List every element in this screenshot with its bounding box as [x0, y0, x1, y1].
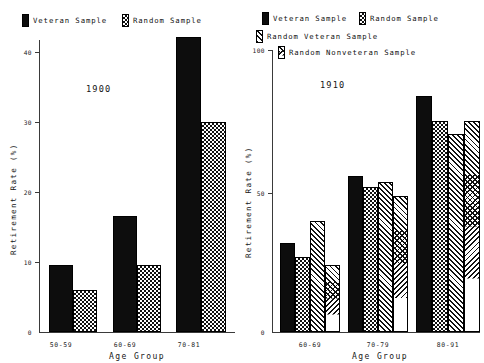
bar-veteran-70-79: [348, 176, 363, 332]
y-tick-40: [35, 52, 39, 53]
x-tick-label-60-69: 60-69: [95, 341, 155, 349]
x-tick-label-80-91: 80-91: [418, 341, 478, 349]
y-axis-line: [39, 40, 40, 333]
x-tick-label-70-81: 70-81: [159, 341, 219, 349]
y-tick-30: [35, 122, 39, 123]
y-tick-10: [35, 262, 39, 263]
bar-veteran-70-81: [176, 37, 201, 332]
y-tick-50: [268, 193, 272, 194]
y-axis-line: [272, 50, 273, 333]
plot-area-1900: 40 30 20 10 0 50-59 60-69 70-81: [0, 0, 242, 363]
bar-random-veteran-80-91: [448, 134, 464, 332]
bar-veteran-60-69: [113, 216, 137, 332]
y-tick-label-10: 10: [10, 259, 32, 266]
x-axis-line: [272, 332, 480, 333]
bar-random-50-59: [73, 290, 97, 332]
x-axis-title-1900: Age Group: [57, 352, 217, 361]
y-tick-label-100: 100: [243, 47, 265, 54]
x-axis-title-1910: Age Group: [300, 352, 460, 361]
y-axis-title-1900: Retirement Rate (%): [9, 143, 18, 255]
plot-area-1910: 100 50 0 60-69 70-79 80-91: [242, 0, 484, 363]
y-tick-20: [35, 192, 39, 193]
bar-veteran-60-69: [280, 243, 295, 332]
bar-random-nonveteran-60-69: [325, 265, 340, 332]
x-tick-label-70-79: 70-79: [348, 341, 408, 349]
bar-random-70-81: [201, 122, 226, 332]
bar-random-veteran-60-69: [310, 221, 325, 332]
panel-1900: Veteran Sample Random Sample 1900 40 30 …: [0, 0, 242, 363]
bar-random-nonveteran-80-91: [464, 121, 480, 332]
bar-veteran-50-59: [49, 265, 73, 332]
bar-veteran-80-91: [416, 96, 432, 332]
figure-two-panel-bar-charts: Veteran Sample Random Sample 1900 40 30 …: [0, 0, 484, 363]
x-axis-line: [39, 332, 235, 333]
y-tick-100: [268, 50, 272, 51]
bar-random-veteran-70-79: [378, 182, 393, 332]
y-tick-label-0: 0: [10, 329, 32, 336]
y-tick-label-0: 0: [243, 329, 265, 336]
y-tick-label-30: 30: [10, 119, 32, 126]
y-tick-label-40: 40: [10, 49, 32, 56]
bar-random-60-69: [295, 257, 310, 332]
panel-1910: Veteran Sample Random Sample Random Vete…: [242, 0, 484, 363]
bar-random-80-91: [432, 121, 448, 332]
x-tick-label-50-59: 50-59: [31, 341, 91, 349]
y-axis-title-1910: Retirement Rate (%): [244, 146, 253, 258]
bar-random-70-79: [363, 187, 378, 332]
x-tick-label-60-69: 60-69: [280, 341, 340, 349]
bar-random-60-69: [137, 265, 161, 332]
bar-random-nonveteran-70-79: [393, 196, 408, 332]
